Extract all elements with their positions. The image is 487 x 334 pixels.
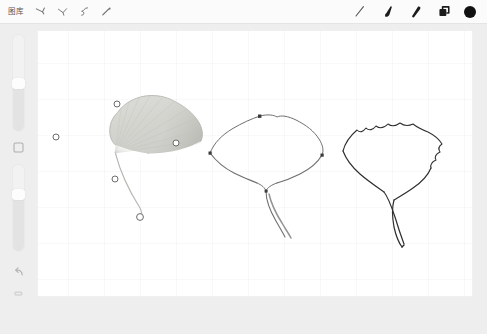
anchor-point[interactable]: [173, 140, 179, 146]
anchor-point[interactable]: [265, 190, 268, 193]
anchor-point[interactable]: [53, 134, 59, 140]
line-tool-icon[interactable]: [352, 4, 367, 20]
leaf-3-stem-tip: [402, 245, 404, 247]
redo-button[interactable]: [10, 286, 27, 302]
leaf-3-left-lower: [343, 151, 384, 192]
anchor-point[interactable]: [258, 115, 261, 118]
leaf-2-right-lower: [277, 155, 322, 183]
anchor-point[interactable]: [321, 154, 324, 157]
leaf-3-top-outline: [343, 123, 442, 168]
layers-tool-icon[interactable]: [436, 4, 451, 20]
brush-size-slider-thumb[interactable]: [12, 78, 25, 89]
brush-opacity-slider-thumb[interactable]: [12, 189, 25, 200]
top-toolbar: 图库: [0, 0, 487, 24]
square-icon: [11, 140, 26, 155]
leaf-2-left-lower: [210, 153, 257, 183]
pencil-stroke-tool-icon[interactable]: [56, 5, 69, 18]
eraser-tool-icon[interactable]: [408, 4, 423, 20]
anchor-point[interactable]: [114, 101, 120, 107]
anchor-point[interactable]: [112, 176, 118, 182]
gallery-label[interactable]: 图库: [8, 8, 25, 16]
brush-stroke-tool-icon[interactable]: [100, 5, 113, 18]
leaf-2-stem-a: [266, 191, 285, 237]
brush-opacity-slider[interactable]: [12, 164, 25, 252]
toolbar-right-group: [352, 4, 480, 20]
shape-button[interactable]: [10, 139, 27, 155]
leaf-outline-anchors[interactable]: [209, 115, 324, 239]
brush-size-slider-fill: [13, 85, 24, 131]
undo-icon: [12, 265, 26, 279]
leaf-3-right-lower: [394, 168, 431, 200]
anchor-point[interactable]: [209, 152, 212, 155]
redo-icon: [12, 287, 25, 300]
artwork-svg: [38, 31, 472, 296]
leaf-2-top-outline: [210, 115, 323, 155]
pen-nib-tool-icon[interactable]: [34, 5, 47, 18]
curve-path-tool-icon[interactable]: [78, 5, 91, 18]
leaf-1-stem: [116, 154, 142, 218]
anchor-point[interactable]: [137, 214, 144, 221]
canvas-artwork-layer: [38, 31, 472, 296]
leaf-outline-clean[interactable]: [343, 123, 442, 247]
brush-size-slider[interactable]: [12, 34, 25, 132]
drawing-app: 图库: [0, 0, 487, 334]
color-swatch[interactable]: [464, 6, 476, 18]
left-sidebar: [8, 30, 29, 302]
leaf-shaded-selected[interactable]: [53, 96, 203, 221]
toolbar-left-group: 图库: [8, 5, 113, 18]
drawing-canvas[interactable]: [38, 31, 472, 296]
leaf-2-stem-b: [269, 194, 291, 238]
brush-tool-icon[interactable]: [380, 4, 395, 20]
undo-button[interactable]: [10, 264, 27, 280]
